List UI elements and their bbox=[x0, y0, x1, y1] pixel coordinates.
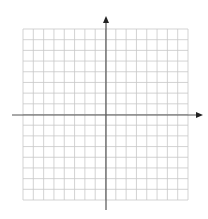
x-axis-arrow-icon bbox=[196, 112, 203, 118]
y-axis-arrow-icon bbox=[103, 16, 109, 23]
axes bbox=[12, 16, 203, 210]
coordinate-plane bbox=[0, 0, 208, 219]
